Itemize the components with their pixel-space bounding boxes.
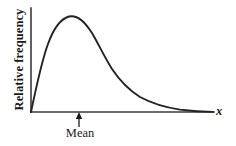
distribution-plot [0, 0, 236, 146]
relative-frequency-distribution-figure: Relative frequency x Mean [0, 0, 236, 146]
mean-arrow-head-icon [76, 112, 82, 119]
x-axis-label: x [216, 104, 222, 119]
y-axis-label: Relative frequency [12, 8, 27, 112]
distribution-curve [31, 16, 213, 112]
mean-annotation-label: Mean [54, 126, 106, 141]
